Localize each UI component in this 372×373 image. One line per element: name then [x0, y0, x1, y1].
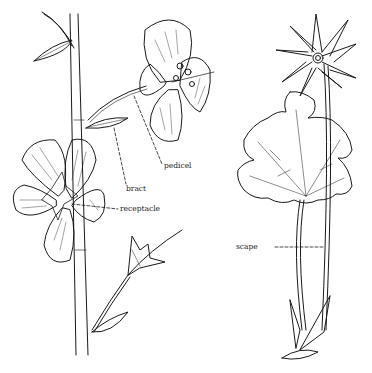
plant-illustration — [0, 0, 372, 373]
rhizome — [282, 350, 318, 359]
scape-stems — [296, 64, 330, 330]
base-sheath-left — [290, 300, 300, 348]
botanical-diagram: pedicel bract receptacle scape — [0, 0, 372, 373]
base-sheath-right — [300, 296, 330, 350]
lower-branch-bud — [92, 230, 182, 332]
label-receptacle: receptacle — [120, 205, 160, 213]
label-scape: scape — [236, 243, 258, 251]
lower-left-flower — [13, 139, 105, 262]
top-branch-edge — [44, 14, 74, 48]
upper-flower — [140, 20, 214, 141]
basal-leaf — [238, 92, 352, 203]
main-stem — [70, 14, 88, 355]
label-bract: bract — [126, 185, 146, 193]
label-pedicel: pedicel — [164, 162, 191, 170]
star-flower — [276, 14, 356, 96]
